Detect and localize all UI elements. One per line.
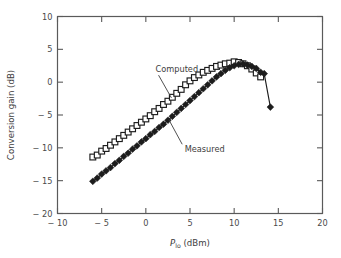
annotation-label-computed: Computed [156,64,199,74]
y-tick-label: − 5 [38,110,53,120]
y-tick-label: − 20 [33,209,53,219]
x-tick-label: 20 [317,218,327,228]
y-tick-label: − 10 [33,143,53,153]
conversion-gain-chart: − 10− 505101520 − 20− 15− 10− 50510 Comp… [0,0,341,258]
x-tick-label: − 5 [94,218,109,228]
y-axis-title: Conversion gain (dB) [6,70,16,160]
annotation-label-measured: Measured [185,144,225,154]
x-tick-label: 15 [273,218,283,228]
chart-canvas: − 10− 505101520 − 20− 15− 10− 50510 Comp… [0,0,341,258]
x-tick-label: 5 [187,218,192,228]
x-tick-label: 10 [229,218,239,228]
x-tick-label: 0 [143,218,148,228]
y-tick-label: − 15 [33,176,53,186]
y-tick-label: 10 [42,12,52,22]
y-tick-label: 5 [47,44,52,54]
y-tick-label: 0 [47,77,52,87]
x-tick-label: − 10 [48,218,68,228]
